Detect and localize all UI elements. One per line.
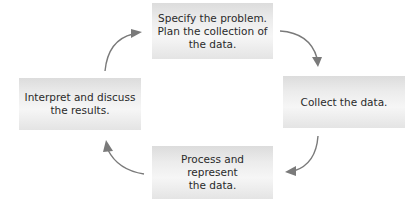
arrow-bottom-to-left-icon [103,140,144,174]
arrow-top-to-right-icon [280,31,322,67]
step-text-line: the results. [25,104,136,117]
step-process-represent: Process and represent the data. [152,146,273,199]
arrow-right-to-bottom-icon [285,136,318,176]
step-collect-data: Collect the data. [283,76,405,128]
step-text-line: the data. [157,38,267,51]
step-text-line: Specify the problem. [157,12,267,25]
step-text-line: Interpret and discuss [25,91,136,104]
step-interpret-discuss: Interpret and discuss the results. [19,78,141,130]
step-text-line: Process and represent [156,153,269,179]
step-text-line: Plan the collection of [157,25,267,38]
step-text-line: Collect the data. [301,96,388,109]
arrow-left-to-top-icon [105,29,142,71]
step-text-line: the data. [156,179,269,192]
step-specify-problem: Specify the problem. Plan the collection… [152,3,273,59]
